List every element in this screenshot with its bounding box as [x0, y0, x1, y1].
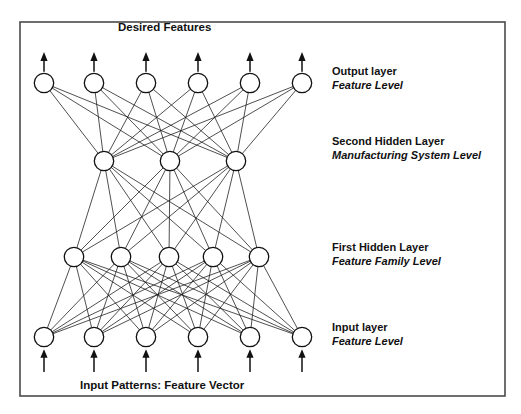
input-arrow-4-head [194, 349, 201, 358]
output-arrow-2-head [90, 52, 97, 61]
connection-edges [47, 87, 297, 334]
edge-input-to-hidden1 [251, 267, 258, 328]
diagram-title: Desired Features [118, 21, 211, 33]
output-arrow-4-head [194, 52, 201, 61]
node-hidden2-3 [226, 151, 245, 170]
node-input-6 [292, 327, 311, 346]
second-hidden-layer-label-main: Second Hidden Layer [332, 135, 445, 147]
output-layer-label-main: Output layer [332, 65, 398, 77]
edge-hidden2-to-output [95, 93, 103, 152]
neuron-nodes [34, 73, 311, 346]
node-hidden1-2 [111, 247, 130, 266]
output-arrow-3-head [142, 52, 149, 61]
diagram-caption: Input Patterns: Feature Vector [80, 379, 245, 391]
node-output-6 [292, 73, 311, 92]
node-hidden2-1 [94, 151, 113, 170]
edge-hidden2-to-output [50, 91, 98, 154]
neural-network-diagram: Desired Features Input Patterns: Feature… [0, 0, 521, 414]
input-arrow-2-head [90, 349, 97, 358]
edge-hidden1-to-hidden2 [77, 170, 101, 247]
edge-hidden2-to-output [52, 88, 162, 156]
node-input-3 [136, 327, 155, 346]
input-layer-label-main: Input layer [332, 321, 388, 333]
edge-hidden1-to-hidden2 [238, 170, 256, 247]
edge-input-to-hidden1 [51, 264, 115, 330]
edge-input-to-hidden1 [102, 262, 205, 331]
edge-hidden1-to-hidden2 [177, 168, 253, 250]
node-hidden1-3 [159, 247, 178, 266]
node-output-1 [34, 73, 53, 92]
edge-input-to-hidden1 [264, 266, 298, 329]
input-arrow-5-head [246, 349, 253, 358]
node-input-2 [84, 327, 103, 346]
node-output-5 [240, 73, 259, 92]
output-arrow-5-head [246, 52, 253, 61]
edge-hidden1-to-hidden2 [81, 168, 163, 250]
input-arrow-6-head [298, 349, 305, 358]
node-output-3 [136, 73, 155, 92]
node-input-4 [188, 327, 207, 346]
output-arrow-1-head [40, 52, 47, 61]
edge-hidden2-to-output [242, 90, 295, 153]
node-hidden1-5 [249, 247, 268, 266]
first-hidden-layer-label-main: First Hidden Layer [332, 241, 429, 253]
node-input-1 [34, 327, 53, 346]
edge-hidden2-to-output [177, 90, 243, 154]
figure-root: Desired Features Input Patterns: Feature… [0, 0, 521, 414]
output-layer-label-sub: Feature Level [332, 79, 404, 91]
edge-input-to-hidden1 [130, 261, 293, 333]
edge-input-to-hidden1 [154, 263, 251, 332]
node-hidden1-1 [64, 247, 83, 266]
node-input-5 [240, 327, 259, 346]
edge-hidden2-to-output [178, 88, 293, 156]
input-arrow-3-head [142, 349, 149, 358]
edge-input-to-hidden1 [177, 262, 293, 332]
edge-hidden1-to-hidden2 [169, 171, 170, 248]
edge-input-to-hidden1 [47, 266, 70, 328]
node-output-2 [84, 73, 103, 92]
edge-hidden1-to-hidden2 [106, 171, 120, 248]
edge-input-to-hidden1 [53, 261, 204, 333]
output-arrow-6-head [298, 52, 305, 61]
first-hidden-layer-label-sub: Feature Family Level [332, 255, 442, 267]
edge-hidden1-to-hidden2 [174, 170, 209, 248]
edge-hidden2-to-output [101, 90, 163, 154]
input-layer-label-sub: Feature Level [332, 335, 404, 347]
edge-hidden2-to-output [238, 93, 249, 152]
node-hidden1-4 [203, 247, 222, 266]
node-output-4 [188, 73, 207, 92]
input-arrow-1-head [40, 349, 47, 358]
edge-hidden1-to-hidden2 [82, 166, 227, 252]
edge-input-to-hidden1 [129, 262, 242, 332]
edge-hidden2-to-output [103, 88, 228, 157]
second-hidden-layer-label-sub: Manufacturing System Level [332, 149, 482, 161]
node-hidden2-2 [160, 151, 179, 170]
